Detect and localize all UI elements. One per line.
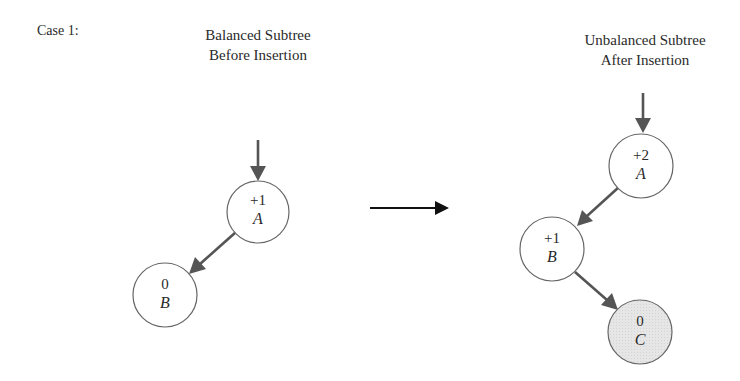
case-label: Case 1: bbox=[37, 23, 79, 38]
left-edge-parent-to-a bbox=[250, 140, 266, 181]
node-balance-factor: +1 bbox=[544, 230, 560, 246]
right-heading-line2: After Insertion bbox=[601, 52, 690, 68]
node-label: B bbox=[160, 294, 170, 311]
left-node-b: 0 B bbox=[133, 263, 197, 327]
node-label: A bbox=[252, 210, 263, 227]
node-label: B bbox=[547, 248, 557, 265]
left-edge-a-to-b bbox=[189, 232, 236, 274]
right-arrow-icon bbox=[370, 201, 449, 215]
node-balance-factor: 0 bbox=[636, 313, 644, 329]
right-node-a: +2 A bbox=[609, 134, 673, 198]
node-balance-factor: +2 bbox=[633, 147, 649, 163]
node-balance-factor: 0 bbox=[161, 276, 169, 292]
node-balance-factor: +1 bbox=[250, 192, 266, 208]
node-label: C bbox=[635, 331, 646, 348]
right-node-b: +1 B bbox=[520, 217, 584, 281]
node-label: A bbox=[635, 165, 646, 182]
left-tree: +1 A 0 B bbox=[133, 140, 289, 327]
avl-case1-diagram: Case 1: Balanced Subtree Before Insertio… bbox=[0, 0, 740, 381]
arrowhead-icon bbox=[250, 166, 266, 181]
right-edge-a-to-b bbox=[577, 187, 619, 226]
right-node-c-inserted: 0 C bbox=[608, 300, 672, 364]
left-node-a: +1 A bbox=[227, 181, 289, 243]
right-tree: +2 A +1 B 0 C bbox=[520, 93, 673, 364]
right-heading-line1: Unbalanced Subtree bbox=[584, 32, 706, 48]
right-edge-parent-to-a bbox=[635, 93, 651, 133]
arrowhead-icon bbox=[635, 118, 651, 133]
right-edge-b-to-c bbox=[575, 272, 618, 310]
left-heading-line1: Balanced Subtree bbox=[205, 27, 311, 43]
left-heading-line2: Before Insertion bbox=[209, 47, 307, 63]
